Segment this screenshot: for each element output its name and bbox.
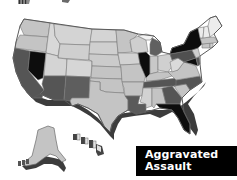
cropped-previous-map-fragment xyxy=(18,0,70,4)
title-line-2: Assault xyxy=(145,161,192,173)
state-MI xyxy=(150,38,162,56)
state-ND xyxy=(90,29,117,42)
state-KS xyxy=(91,66,122,79)
state-NE xyxy=(89,54,121,67)
state-SD xyxy=(89,42,118,55)
state-IN xyxy=(150,56,158,74)
state-AR xyxy=(122,82,144,96)
state-HI xyxy=(73,134,104,156)
state-NM xyxy=(64,76,90,101)
map-title-label: Aggravated Assault xyxy=(136,146,237,176)
state-MT xyxy=(54,24,92,45)
state-AZ xyxy=(40,76,66,100)
state-CO xyxy=(66,59,92,77)
state-ME xyxy=(208,16,222,37)
state-IA xyxy=(118,53,140,65)
state-WY xyxy=(58,44,90,60)
state-AK xyxy=(18,126,66,172)
